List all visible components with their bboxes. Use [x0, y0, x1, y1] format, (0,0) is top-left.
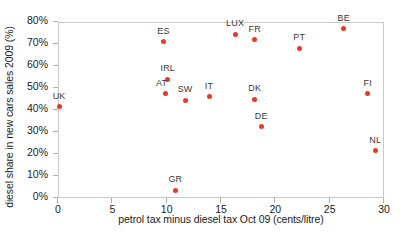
data-point[interactable]: [373, 148, 378, 153]
data-point-label: IRL: [160, 63, 175, 73]
y-axis-tick-mark: [53, 65, 58, 66]
y-axis-tick-label: 40%: [27, 102, 48, 114]
data-point-label: IT: [205, 81, 213, 91]
y-axis-tick-mark: [53, 175, 58, 176]
y-axis-tick-label: 70%: [27, 36, 48, 48]
y-axis-tick-mark: [53, 43, 58, 44]
y-axis-tick-label: 10%: [27, 168, 48, 180]
data-point[interactable]: [207, 94, 212, 99]
y-axis-tick-label: 50%: [27, 80, 48, 92]
data-point[interactable]: [252, 97, 257, 102]
y-axis-tick-label: 0%: [33, 190, 48, 202]
data-point[interactable]: [259, 124, 264, 129]
y-axis-tick-mark: [53, 131, 58, 132]
y-axis-tick-mark: [53, 153, 58, 154]
data-point-label: PT: [293, 32, 305, 42]
data-point[interactable]: [173, 188, 178, 193]
scatter-chart-figure: diesel share in new cars sales 2009 (%) …: [0, 0, 402, 234]
data-point[interactable]: [297, 46, 302, 51]
data-point-label: UK: [53, 91, 66, 101]
data-point[interactable]: [57, 104, 62, 109]
data-point-label: DE: [255, 111, 268, 121]
data-point[interactable]: [233, 32, 238, 37]
data-point-label: LUX: [226, 18, 244, 28]
x-axis-title: petrol tax minus diesel tax Oct 09 (cent…: [58, 213, 384, 225]
data-point-label: SW: [178, 84, 193, 94]
y-axis-tick-label: 80%: [27, 14, 48, 26]
data-point-label: NL: [369, 135, 381, 145]
data-point-label: ES: [157, 26, 169, 36]
y-axis-tick-mark: [53, 109, 58, 110]
data-point-label: GR: [168, 174, 182, 184]
plot-area: [58, 22, 384, 198]
y-axis-tick-label: 30%: [27, 124, 48, 136]
y-axis-tick-mark: [53, 87, 58, 88]
data-point-label: AT: [156, 78, 167, 88]
data-point-label: FR: [248, 24, 260, 34]
data-point-label: DK: [248, 83, 261, 93]
data-point-label: FI: [363, 78, 371, 88]
y-axis-tick-label: 60%: [27, 58, 48, 70]
data-point[interactable]: [183, 98, 188, 103]
y-axis-title: diesel share in new cars sales 2009 (%): [0, 0, 18, 234]
y-axis-tick-label: 20%: [27, 146, 48, 158]
data-point-label: BE: [338, 13, 350, 23]
y-axis-tick-mark: [53, 21, 58, 22]
